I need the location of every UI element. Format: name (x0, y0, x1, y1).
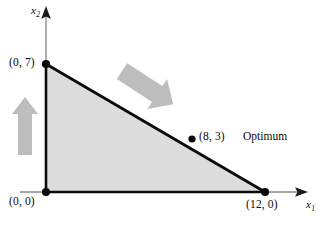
y-axis-label-subscript: 2 (36, 10, 40, 19)
vertex-dot-12-0 (261, 188, 269, 196)
plot-canvas (0, 0, 335, 227)
vertical-improvement-arrow-icon (12, 97, 38, 155)
x-axis-label-subscript: 1 (311, 204, 315, 213)
y-axis-label: x2 (31, 5, 40, 16)
origin-point-label: (0, 0) (9, 196, 35, 208)
y-intercept-point-label: (0, 7) (9, 57, 35, 69)
vertex-dot-origin (42, 188, 50, 196)
vertex-dot-0-7 (42, 60, 50, 68)
optimum-point-label: (8, 3) (199, 131, 225, 143)
optimum-annotation-label: Optimum (243, 131, 287, 143)
vertex-dot-8-3 (188, 135, 195, 142)
x-intercept-point-label: (12, 0) (246, 199, 278, 211)
lp-feasible-region-figure: x2 x1 (0, 0) (0, 7) (12, 0) (8, 3) Optim… (0, 0, 335, 227)
x-axis-label: x1 (306, 199, 315, 210)
